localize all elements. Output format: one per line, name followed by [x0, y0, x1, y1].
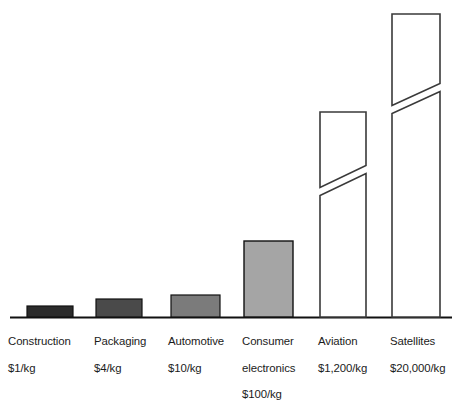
category-label-consumer-electronics: Consumer electronics $100/kg	[242, 322, 320, 404]
category-name-construction: Construction	[8, 335, 92, 348]
clipped-caption-row	[0, 381, 459, 389]
category-price-automotive: $10/kg	[168, 362, 248, 375]
category-name-consumer-line1: Consumer	[242, 335, 320, 348]
category-price-packaging: $4/kg	[94, 362, 170, 375]
bar-consumer-electronics	[244, 241, 293, 317]
category-price-aviation: $1,200/kg	[318, 362, 392, 375]
bar-automotive	[171, 295, 220, 317]
category-label-construction: Construction $1/kg	[8, 322, 92, 388]
category-label-automotive: Automotive $10/kg	[168, 322, 248, 388]
category-label-aviation: Aviation $1,200/kg	[318, 322, 392, 388]
category-name-aviation: Aviation	[318, 335, 392, 348]
bar-satellites-lower-segment	[392, 92, 440, 318]
category-name-automotive: Automotive	[168, 335, 248, 348]
category-price-satellites: $20,000/kg	[390, 362, 459, 375]
bar-construction	[27, 306, 73, 317]
category-price-construction: $1/kg	[8, 362, 92, 375]
category-name-consumer-line2: electronics	[242, 362, 320, 375]
bar-aviation-lower-segment	[320, 174, 366, 318]
bar-satellites-upper-segment	[392, 14, 440, 106]
category-label-packaging: Packaging $4/kg	[94, 322, 170, 388]
category-label-satellites: Satellites $20,000/kg	[390, 322, 459, 388]
bar-packaging	[96, 299, 142, 317]
category-name-packaging: Packaging	[94, 335, 170, 348]
category-name-satellites: Satellites	[390, 335, 459, 348]
category-price-consumer: $100/kg	[242, 388, 320, 401]
